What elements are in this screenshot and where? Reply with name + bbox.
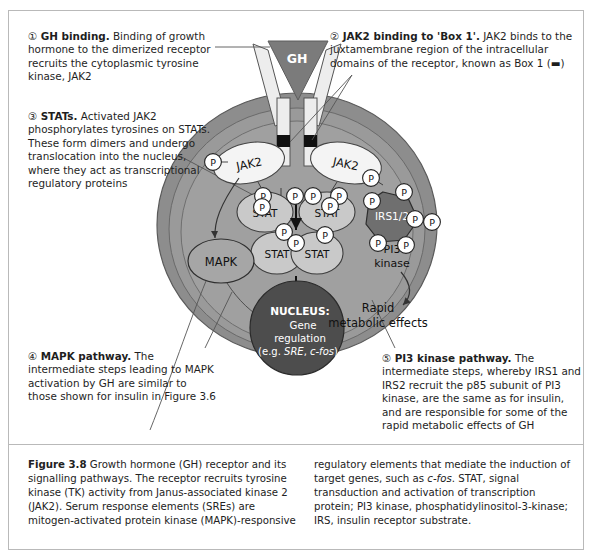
svg-text:P: P [259, 202, 265, 213]
pi3-kinase-label-line2: kinase [374, 257, 410, 270]
phosphate-icon: P [407, 211, 424, 228]
phosphate-icon: P [322, 198, 339, 215]
phosphate-icon: P [305, 188, 322, 205]
annotation-2-heading: JAK2 binding to 'Box 1'. [343, 30, 480, 42]
svg-text:P: P [336, 191, 342, 202]
svg-text:P: P [401, 187, 407, 198]
svg-text:P: P [369, 196, 375, 207]
figure-caption-right: regulatory elements that mediate the ind… [314, 458, 576, 528]
phosphate-icon: P [317, 227, 334, 244]
svg-text:P: P [429, 217, 435, 228]
stat-dimer-left-label: STAT [264, 248, 290, 260]
phosphate-icon: P [364, 193, 381, 210]
annotation-1-heading: GH binding. [41, 30, 110, 42]
phosphate-icon: P [254, 199, 271, 216]
annotation-3: ③ STATs. Activated JAK2 phosphorylates t… [28, 110, 213, 190]
annotation-3-marker: ③ [28, 110, 37, 122]
gh-ligand-label: GH [287, 51, 308, 66]
caption-divider [8, 444, 584, 445]
box1-marker-left [277, 135, 290, 147]
annotation-4-marker: ④ [28, 350, 37, 362]
phosphate-icon: P [288, 235, 305, 252]
phosphate-icon: P [424, 214, 441, 231]
svg-text:P: P [403, 240, 409, 251]
rapid-effects-line1: Rapid [362, 301, 395, 315]
annotation-5: ⑤ PI3 kinase pathway. The intermediate s… [382, 352, 582, 432]
svg-text:P: P [292, 191, 298, 202]
phosphate-icon: P [287, 188, 304, 205]
svg-text:P: P [368, 173, 374, 184]
figure-caption-right-italic: c-fos [427, 473, 451, 484]
svg-text:P: P [281, 227, 287, 238]
nucleus-line-genes: (e.g. SRE, c-fos) [258, 346, 338, 357]
svg-text:P: P [412, 214, 418, 225]
annotation-2: ② JAK2 binding to 'Box 1'. JAK2 binds to… [330, 30, 582, 70]
rapid-effects-line2: metabolic effects [328, 316, 427, 330]
nucleus-line-regulation: regulation [274, 333, 326, 344]
mapk-node-label: MAPK [205, 255, 238, 269]
figure-caption-label: Figure 3.8 [28, 459, 87, 470]
mapk-node: MAPK [188, 239, 254, 283]
annotation-4: ④ MAPK pathway. The intermediate steps l… [28, 350, 218, 404]
svg-text:P: P [375, 238, 381, 249]
annotation-2-marker: ② [330, 30, 339, 42]
phosphate-icon: P [398, 237, 415, 254]
svg-text:P: P [327, 201, 333, 212]
annotation-3-heading: STATs. [41, 110, 78, 122]
phosphate-icon: P [363, 170, 380, 187]
annotation-5-heading: PI3 kinase pathway. [395, 352, 512, 364]
annotation-1-marker: ① [28, 30, 37, 42]
box1-marker-right [304, 135, 317, 147]
nucleus-title: NUCLEUS: [270, 305, 330, 317]
annotation-1: ① GH binding. Binding of growth hormone … [28, 30, 218, 84]
annotation-5-marker: ⑤ [382, 352, 391, 364]
irs-complex-label: IRS1/2 [375, 210, 409, 222]
figure-caption-left: Figure 3.8 Growth hormone (GH) receptor … [28, 458, 296, 528]
nucleus-line-gene: Gene [290, 320, 317, 331]
svg-text:P: P [310, 191, 316, 202]
stat-dimer-right-label: STAT [304, 248, 330, 260]
phosphate-icon: P [396, 184, 413, 201]
svg-text:P: P [293, 238, 299, 249]
svg-text:P: P [322, 230, 328, 241]
annotation-4-heading: MAPK pathway. [41, 350, 132, 362]
phosphate-icon: P [370, 235, 387, 252]
